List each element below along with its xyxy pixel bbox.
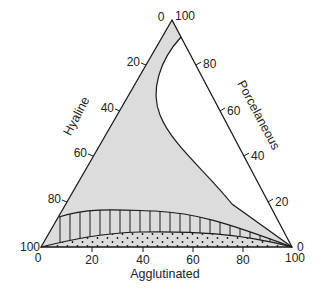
right-tick-80: 80: [203, 57, 217, 71]
left-tick-60: 60: [74, 146, 88, 160]
left-tick-100: 100: [20, 240, 40, 254]
bottom-axis-title: Agglutinated: [130, 267, 200, 281]
left-tick-20: 20: [127, 55, 141, 69]
bottom-axis-ticks: [92, 247, 243, 252]
left-tick-40: 40: [101, 101, 115, 115]
bottom-tick-40: 40: [136, 253, 150, 267]
ternary-diagram: 0 20 40 60 80 100 100 20 40 60 80 0 80 6…: [0, 0, 322, 302]
bottom-tick-60: 60: [186, 253, 200, 267]
top-vertex-label-100: 100: [175, 9, 195, 23]
top-vertex-label-0: 0: [158, 10, 165, 24]
left-tick-80: 80: [48, 192, 62, 206]
right-tick-40: 40: [251, 149, 265, 163]
bottom-tick-20: 20: [85, 253, 99, 267]
left-axis-title: Hyaline: [61, 94, 93, 137]
right-tick-60: 60: [227, 104, 241, 118]
right-axis-title: Porcelaneous: [234, 78, 282, 152]
bottom-tick-80: 80: [236, 253, 250, 267]
right-tick-20: 20: [275, 195, 289, 209]
right-tick-0: 0: [297, 240, 304, 254]
